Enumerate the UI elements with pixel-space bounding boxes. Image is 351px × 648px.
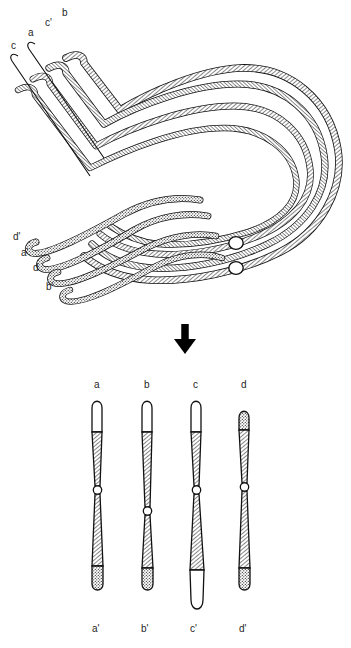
chromosome-c-bottom-tip	[190, 570, 204, 609]
chromosome-a-centromere	[93, 486, 101, 494]
centromere-lower	[229, 262, 243, 275]
chromosome-c-centromere	[192, 486, 200, 494]
chromosome-d-bottom-tip	[239, 568, 250, 590]
cytogenetics-figure	[0, 0, 351, 648]
chromosome-d-top-tip	[239, 411, 249, 430]
chromosome-a-bottom-tip	[92, 566, 103, 590]
chromosome-label-b: b	[144, 380, 150, 390]
upper-label-c: c	[11, 41, 16, 51]
chromosome-label-b-prime: b'	[141, 624, 148, 634]
chromosome-b-top-tip	[142, 401, 152, 432]
centromere-upper	[229, 237, 243, 250]
chromosome-label-c-prime: c'	[190, 624, 197, 634]
chromosome-b-bottom-tip	[142, 568, 153, 590]
chromosome-b-centromere	[143, 507, 151, 515]
chromosome-label-d-prime: d'	[239, 624, 246, 634]
upper-label-c-prime: c'	[45, 18, 52, 28]
upper-label-a: a	[28, 28, 34, 38]
lower-left-label-b-prime: b'	[46, 282, 53, 292]
chromosome-c-top-tip	[191, 401, 201, 432]
chromosome-d-centromere	[240, 483, 248, 491]
chromosome-label-a: a	[94, 380, 100, 390]
chromosome-a-top-tip	[92, 401, 102, 432]
upper-label-b: b	[62, 8, 68, 18]
chromosome-label-d: d	[241, 380, 247, 390]
chromosome-label-c: c	[193, 380, 198, 390]
lower-left-label-d-prime: d'	[13, 232, 20, 242]
lower-left-label-a-prime: a'	[21, 248, 28, 258]
chromosome-label-a-prime: a'	[92, 624, 99, 634]
lower-left-label-d: d	[33, 263, 39, 273]
